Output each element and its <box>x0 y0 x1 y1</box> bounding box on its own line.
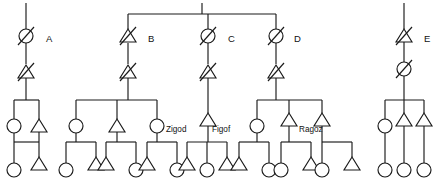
sibship-g3-2 <box>66 142 96 163</box>
person-g2-e2[interactable] <box>396 113 412 170</box>
person-g2-a2[interactable] <box>31 119 47 142</box>
generation-label-b: B <box>148 33 154 44</box>
sibship-g3-3 <box>106 142 136 163</box>
male-triangle-icon[interactable] <box>31 157 47 170</box>
female-circle-icon[interactable] <box>397 163 411 177</box>
female-circle-icon <box>69 119 83 133</box>
female-circle-icon[interactable] <box>200 163 214 177</box>
pedigree-chart: A B C <box>0 0 441 186</box>
female-circle-icon[interactable] <box>315 163 329 177</box>
person-g2-d2-ragoz[interactable] <box>281 113 297 142</box>
founder-stack-b[interactable] <box>120 27 136 100</box>
person-g2-b3-zigod[interactable] <box>150 119 164 142</box>
founder-stack-d[interactable] <box>268 27 284 100</box>
generation-label-e: E <box>424 33 430 44</box>
male-triangle-icon <box>281 113 297 126</box>
sibship-b <box>76 100 157 119</box>
female-circle-icon <box>378 119 392 133</box>
female-circle-icon <box>250 119 264 133</box>
female-circle-icon[interactable] <box>7 163 21 177</box>
founder-stack-a[interactable] <box>18 3 34 100</box>
male-triangle-icon <box>314 113 330 126</box>
founder-stack-c[interactable] <box>200 27 216 100</box>
male-triangle-icon <box>31 119 47 132</box>
sibship-g3-7 <box>281 142 311 163</box>
male-triangle-icon[interactable] <box>344 157 360 170</box>
female-circle-icon <box>150 119 164 133</box>
person-g2-e3[interactable] <box>416 113 432 170</box>
generation-3-group <box>7 142 431 177</box>
male-triangle-icon[interactable] <box>179 157 195 170</box>
sibship-g3-8 <box>322 142 352 163</box>
person-g2-b1[interactable] <box>69 119 83 142</box>
male-triangle-icon[interactable] <box>231 157 247 170</box>
person-g2-e1[interactable] <box>378 119 392 170</box>
female-circle-icon[interactable] <box>59 163 73 177</box>
male-triangle-icon <box>416 113 432 126</box>
generation-label-a: A <box>46 33 53 44</box>
male-triangle-icon <box>396 113 412 126</box>
founder-stack-e[interactable] <box>396 3 412 100</box>
sibship-g3-6 <box>239 142 269 163</box>
pedigree-canvas: A B C <box>0 0 441 186</box>
sibship-g3-1 <box>14 142 39 163</box>
female-circle-icon[interactable] <box>417 163 431 177</box>
person-g2-a1[interactable] <box>7 119 21 142</box>
female-circle-icon <box>7 119 21 133</box>
sibship-g3-5 <box>187 142 227 163</box>
male-triangle-icon <box>200 113 216 126</box>
female-circle-icon[interactable] <box>274 163 288 177</box>
person-g2-d1[interactable] <box>250 119 264 142</box>
male-triangle-icon <box>109 119 125 132</box>
sibship-a <box>14 100 39 119</box>
female-circle-icon[interactable] <box>378 163 392 177</box>
male-triangle-icon[interactable] <box>139 157 155 170</box>
generation-2-group: Zigod Figof <box>7 100 432 170</box>
generation-label-c: C <box>228 33 235 44</box>
person-g2-b2[interactable] <box>109 119 125 142</box>
sibship-g3-4 <box>147 142 177 163</box>
person-name-zigod: Zigod <box>166 125 187 134</box>
person-name-figof: Figof <box>212 125 231 134</box>
generation-1-group: A B C <box>18 3 430 100</box>
generation-label-d: D <box>294 33 301 44</box>
sibship-bar-top <box>128 3 276 29</box>
